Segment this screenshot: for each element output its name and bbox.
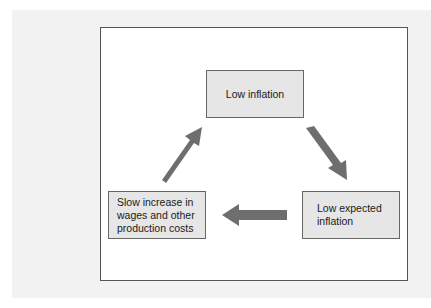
arrow-slow-to-low-inflation [162, 127, 202, 183]
node-label: Low expected inflation [317, 202, 382, 228]
arrow-low-inflation-to-expected [306, 126, 347, 180]
arrows-layer [0, 0, 431, 308]
arrow-expected-to-slow [222, 204, 287, 226]
node-label: Low inflation [226, 88, 284, 101]
node-low-inflation: Low inflation [206, 70, 304, 118]
node-low-expected-inflation: Low expected inflation [302, 191, 400, 239]
node-slow-increase: Slow increase in wages and other product… [108, 191, 206, 239]
node-label: Slow increase in wages and other product… [117, 196, 195, 235]
